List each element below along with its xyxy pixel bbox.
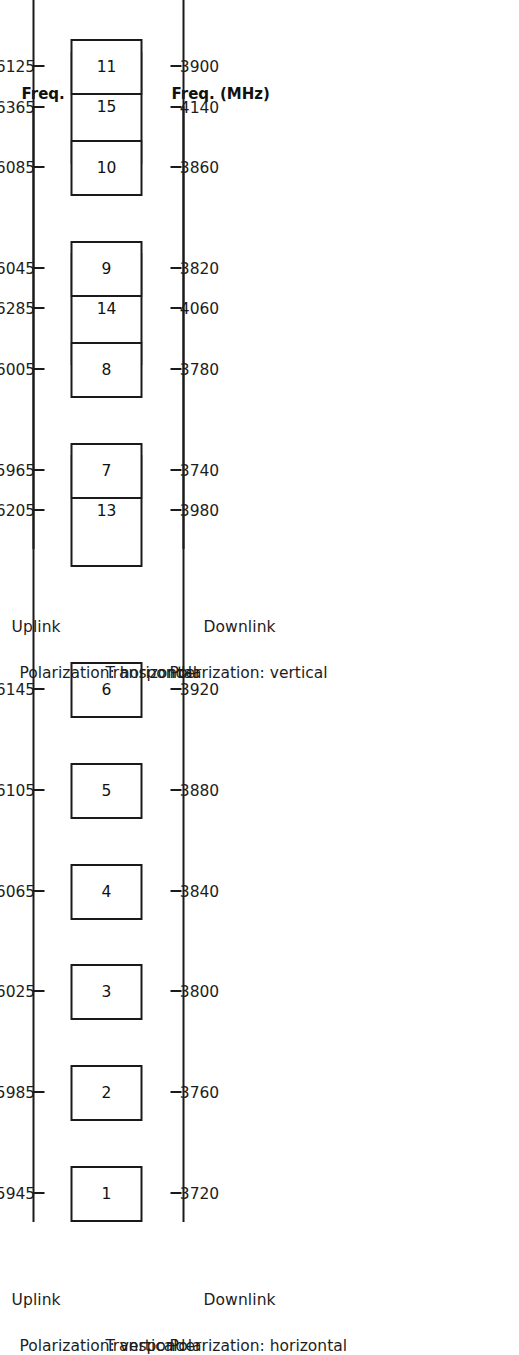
uplink-frequency: 5985 (0, 1084, 35, 1102)
transponder-box[interactable]: 8 (70, 342, 142, 398)
transponder-box[interactable]: 9 (70, 241, 142, 297)
uplink-frequency: 6005 (0, 361, 35, 379)
transponder-box[interactable]: 3 (70, 964, 142, 1020)
downlink-frequency: 3780 (179, 361, 218, 379)
transponder-box[interactable]: 5 (70, 763, 142, 819)
downlink-frequency: 3840 (179, 883, 218, 901)
downlink-polarization-label: Polarization: vertical (169, 664, 327, 682)
uplink-frequency: 6045 (0, 260, 35, 278)
transponder-number: 8 (101, 361, 111, 379)
transponder-number: 4 (101, 883, 111, 901)
transponder-number: 11 (96, 58, 116, 76)
downlink-frequency: 3920 (179, 681, 218, 699)
uplink-frequency: 6125 (0, 58, 35, 76)
transponder-number: 10 (96, 159, 116, 177)
uplink-label: Uplink (11, 618, 60, 636)
downlink-frequency: 3740 (179, 462, 218, 480)
uplink-frequency: 5945 (0, 1185, 35, 1203)
uplink-label: Uplink (11, 1291, 60, 1309)
uplink-frequency: 6085 (0, 159, 35, 177)
transponder-number: 9 (101, 260, 111, 278)
downlink-label: Downlink (203, 1291, 275, 1309)
transponder-number: 3 (101, 983, 111, 1001)
uplink-frequency: 6145 (0, 681, 35, 699)
downlink-frequency: 3880 (179, 782, 218, 800)
panel-panel-b: UplinkDownlinkFreq. (MHz)Freq. (MHz)Pola… (0, 0, 519, 673)
panel-panel-a: UplinkDownlinkFreq. (MHz)Freq. (MHz)Pola… (0, 673, 519, 1346)
downlink-frequency: 3760 (179, 1084, 218, 1102)
downlink-frequency: 3860 (179, 159, 218, 177)
transponder-box[interactable]: 2 (70, 1065, 142, 1121)
transponder-box[interactable]: 10 (70, 140, 142, 196)
downlink-frequency: 3820 (179, 260, 218, 278)
uplink-frequency: 6065 (0, 883, 35, 901)
transponder-box[interactable]: 7 (70, 443, 142, 499)
downlink-polarization-label: Polarization: horizontal (169, 1337, 347, 1355)
downlink-frequency: 3800 (179, 983, 218, 1001)
transponder-number: 6 (101, 681, 111, 699)
downlink-frequency: 3720 (179, 1185, 218, 1203)
downlink-label: Downlink (203, 618, 275, 636)
downlink-frequency: 3900 (179, 58, 218, 76)
transponder-box[interactable]: 11 (70, 39, 142, 95)
transponder-number: 5 (101, 782, 111, 800)
uplink-frequency: 6105 (0, 782, 35, 800)
transponder-number: 1 (101, 1185, 111, 1203)
transponder-box[interactable]: 1 (70, 1166, 142, 1222)
uplink-frequency: 6025 (0, 983, 35, 1001)
transponder-number: 7 (101, 462, 111, 480)
uplink-frequency: 5965 (0, 462, 35, 480)
transponder-number: 2 (101, 1084, 111, 1102)
transponder-box[interactable]: 4 (70, 864, 142, 920)
